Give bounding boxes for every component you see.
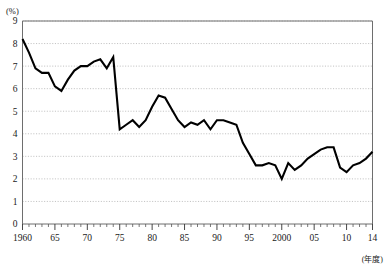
y-tick-label-8: 8 xyxy=(13,39,18,49)
x-tick-label-1995: 95 xyxy=(245,233,255,243)
series-line-0 xyxy=(23,39,373,179)
gridlines xyxy=(23,21,373,201)
x-tick-label-2000: 2000 xyxy=(272,233,291,243)
x-tick-label-2014: 14 xyxy=(368,233,378,243)
x-tick-label-1980: 80 xyxy=(147,233,157,243)
x-tick-label-1985: 85 xyxy=(180,233,190,243)
axes xyxy=(23,21,373,224)
x-tick-label-1965: 65 xyxy=(50,233,60,243)
y-tick-label-3: 3 xyxy=(13,152,18,162)
y-axis-tick-labels: 0123456789 xyxy=(13,16,18,229)
line-chart: 0123456789 1960657075808590952000051014 … xyxy=(0,0,384,269)
x-axis-ticks xyxy=(23,224,373,230)
x-tick-label-1970: 70 xyxy=(83,233,93,243)
chart-container: 0123456789 1960657075808590952000051014 … xyxy=(0,0,384,269)
x-tick-label-1990: 90 xyxy=(212,233,222,243)
x-tick-label-1975: 75 xyxy=(115,233,125,243)
x-tick-label-2010: 10 xyxy=(342,233,352,243)
y-tick-label-5: 5 xyxy=(13,107,18,117)
data-series xyxy=(23,39,373,179)
plot-frame xyxy=(23,21,373,224)
y-tick-label-1: 1 xyxy=(13,197,18,207)
y-tick-label-7: 7 xyxy=(13,62,18,72)
y-tick-label-4: 4 xyxy=(13,129,18,139)
x-axis-tick-labels: 1960657075808590952000051014 xyxy=(13,233,378,243)
x-tick-label-1960: 1960 xyxy=(13,233,32,243)
y-tick-label-0: 0 xyxy=(13,219,18,229)
y-axis-unit-label: (%) xyxy=(6,6,19,16)
y-tick-label-9: 9 xyxy=(13,16,18,26)
y-tick-label-6: 6 xyxy=(13,84,18,94)
x-axis-unit-label: (年度) xyxy=(362,254,384,264)
x-tick-label-2005: 05 xyxy=(309,233,319,243)
y-tick-label-2: 2 xyxy=(13,174,18,184)
